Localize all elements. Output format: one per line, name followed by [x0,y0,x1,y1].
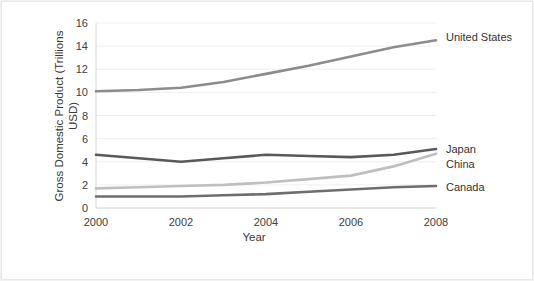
y-tick-label: 12 [76,63,88,75]
x-tick-label: 2004 [254,216,278,228]
series-label-canada: Canada [446,181,485,193]
x-tick-label: 2000 [84,216,108,228]
x-axis-tick-labels: 20002002200420062008 [84,216,448,228]
y-axis-title-line1: Gross Domestic Product (Trillions [53,30,65,201]
series-line-japan [96,149,436,162]
series-line-united-states [96,40,436,91]
y-axis-title-line2: USD) [67,102,79,130]
y-tick-label: 6 [82,133,88,145]
x-tick-label: 2006 [339,216,363,228]
data-series-group [96,40,436,196]
chart-figure: 0246810121416 20002002200420062008 Unite… [0,0,534,281]
series-label-japan: Japan [446,143,476,155]
y-tick-label: 0 [82,202,88,214]
y-tick-label: 8 [82,110,88,122]
y-tick-label: 2 [82,179,88,191]
series-label-united-states: United States [446,31,513,43]
series-labels-group: United StatesJapanChinaCanada [446,31,513,193]
x-axis-title: Year [242,231,265,243]
y-tick-label: 16 [76,17,88,29]
y-tick-label: 14 [76,40,88,52]
line-chart: 0246810121416 20002002200420062008 Unite… [1,1,534,281]
y-tick-label: 4 [82,156,88,168]
y-tick-label: 10 [76,86,88,98]
gridlines [96,23,436,208]
x-tick-label: 2008 [424,216,448,228]
series-label-china: China [446,158,476,170]
x-tick-label: 2002 [169,216,193,228]
